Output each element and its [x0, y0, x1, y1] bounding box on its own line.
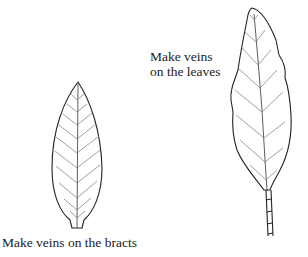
leaf-stem [266, 190, 273, 236]
leaf-midrib [254, 14, 267, 190]
bract-drawing [52, 82, 102, 228]
bract-midrib [77, 84, 78, 228]
leaf-drawing [231, 8, 291, 236]
leaf-illustrations [0, 0, 308, 257]
leaf-veins [235, 15, 285, 180]
